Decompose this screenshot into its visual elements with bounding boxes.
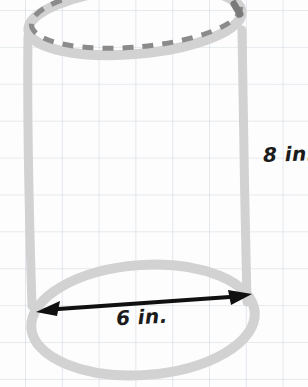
cylinder-right-wall <box>242 30 247 302</box>
cylinder-left-wall <box>28 36 32 306</box>
height-label: 8 in. <box>263 141 308 167</box>
figure-canvas: 8 in. 6 in. <box>0 0 308 387</box>
cylinder-figure <box>0 0 308 387</box>
diameter-label: 6 in. <box>115 304 168 331</box>
